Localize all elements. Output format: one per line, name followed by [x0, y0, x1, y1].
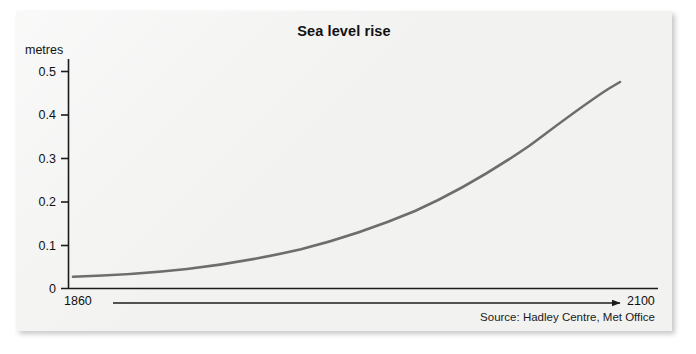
y-axis-unit-label: metres: [25, 43, 63, 57]
y-tick-label-01: 0.1: [16, 239, 56, 253]
y-tick-label-03: 0.3: [16, 152, 56, 166]
y-tick-label-0: 0: [16, 282, 56, 296]
y-tick-label-02: 0.2: [16, 195, 56, 209]
y-tick-label-04: 0.4: [16, 108, 56, 122]
x-axis-start-label: 1860: [64, 294, 92, 308]
screenshot-root: Sea level rise metres 0.5 0.4: [0, 0, 696, 354]
chart-title: Sea level rise: [16, 23, 672, 39]
plot-area: [16, 11, 672, 331]
source-attribution: Source: Hadley Centre, Met Office: [480, 311, 655, 323]
x-axis-end-label: 2100: [627, 294, 655, 308]
data-series-line: [73, 82, 620, 277]
y-tick-label-05: 0.5: [16, 65, 56, 79]
chart-card: Sea level rise metres 0.5 0.4: [16, 11, 672, 331]
